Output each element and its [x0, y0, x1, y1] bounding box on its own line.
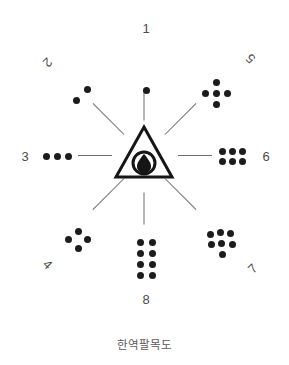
dot	[137, 250, 144, 257]
dot	[75, 245, 82, 252]
dot	[218, 240, 225, 247]
dot	[239, 158, 246, 165]
dot	[213, 101, 220, 108]
node-label-3-text: 3	[21, 150, 28, 163]
node-label-1-text: 1	[142, 22, 149, 35]
dot	[84, 86, 91, 93]
dot	[219, 158, 226, 165]
dot	[54, 153, 61, 160]
dot	[43, 153, 50, 160]
node-label-7-text: 7	[246, 261, 260, 275]
triangle-eye-flame-emblem	[112, 122, 176, 182]
diagram-page: 1 2 3 4	[0, 0, 289, 365]
dot	[137, 239, 144, 246]
node-label-8-text: 8	[142, 293, 149, 306]
dot	[219, 148, 226, 155]
dot	[229, 148, 236, 155]
dot	[73, 97, 80, 104]
spoke-line-4	[93, 178, 125, 210]
dot	[227, 230, 234, 237]
dot	[207, 231, 214, 238]
dot	[149, 261, 156, 268]
dot	[239, 148, 246, 155]
node-label-5-text: 5	[244, 51, 258, 65]
dot	[208, 241, 215, 248]
spoke-line-8	[144, 193, 145, 225]
dot	[202, 90, 209, 97]
diagram-caption: 한역팔목도	[117, 336, 173, 352]
dot	[149, 239, 156, 246]
node-label-4-text: 4	[41, 257, 55, 271]
dot	[229, 241, 236, 248]
caption-area: 한역팔목도	[0, 322, 289, 365]
dot	[65, 153, 72, 160]
spoke-line-6	[178, 155, 212, 156]
dot	[137, 272, 144, 279]
dot	[219, 251, 226, 258]
dot	[213, 90, 220, 97]
dot	[75, 228, 82, 235]
radial-diagram: 1 2 3 4	[0, 0, 289, 320]
dot	[149, 272, 156, 279]
dot	[137, 261, 144, 268]
dot	[65, 236, 72, 243]
dot	[229, 158, 236, 165]
node-label-2-text: 2	[41, 55, 55, 69]
spoke-line-7	[165, 178, 197, 210]
dot	[224, 90, 231, 97]
dot	[84, 236, 91, 243]
dot	[213, 79, 220, 86]
dot	[217, 229, 224, 236]
dot	[143, 87, 150, 94]
spoke-line-3	[78, 155, 112, 156]
dot	[149, 250, 156, 257]
node-label-6-text: 6	[262, 150, 269, 163]
